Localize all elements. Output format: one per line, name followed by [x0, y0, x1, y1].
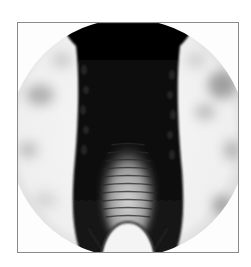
photo-frame: [17, 22, 239, 253]
shadowgraph-image: [17, 22, 239, 253]
